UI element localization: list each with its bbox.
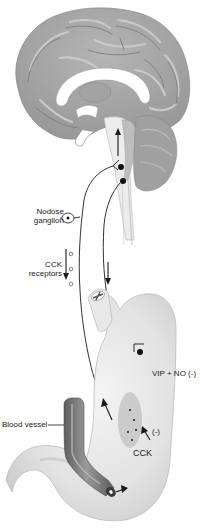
inhibit-label: (-) bbox=[152, 427, 160, 436]
vip-no-label: VIP + NO (-) bbox=[152, 369, 196, 378]
thalamus bbox=[79, 82, 111, 102]
cck-receptors-label: CCK receptors bbox=[22, 260, 62, 278]
stomach-body bbox=[6, 292, 176, 520]
nodose-label-line1: Nodose bbox=[26, 207, 64, 216]
cerebellum bbox=[134, 116, 177, 191]
diagram-canvas: Nodose ganglion CCK receptors VIP + NO (… bbox=[0, 0, 200, 529]
blood-vessel-label: Blood vessel bbox=[2, 420, 47, 429]
nodose-label-line2: ganglion bbox=[26, 216, 64, 225]
cck-receptors-line1: CCK bbox=[22, 260, 62, 269]
cck-receptor-dots bbox=[69, 252, 73, 286]
receptor-transport-arrow bbox=[63, 249, 69, 280]
nucleus-tractus-solitarius bbox=[118, 164, 124, 170]
cck-label: CCK bbox=[133, 449, 152, 458]
mucosa-patch bbox=[118, 392, 142, 448]
efferent-arrow-down bbox=[105, 262, 111, 285]
cck-receptors-line2: receptors bbox=[22, 269, 62, 278]
dorsal-motor-nucleus bbox=[120, 178, 126, 184]
nodose-ganglion-label: Nodose ganglion bbox=[26, 207, 64, 225]
